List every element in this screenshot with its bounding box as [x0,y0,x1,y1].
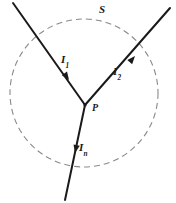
branch-current-1 [13,3,85,105]
label-surface-s-text: S [99,3,105,15]
physics-figure-junction-currents: S I1 I2 In P [0,0,176,203]
label-current-2: I2 [113,66,121,80]
label-current-2-subscript: 2 [118,74,122,82]
label-current-n-subscript: n [84,150,88,158]
branch-current-2 [85,8,170,105]
label-junction-p: P [92,103,98,113]
label-current-1-symbol: I [61,53,65,65]
label-current-n-symbol: I [79,141,83,153]
label-surface-s: S [99,4,105,15]
branch-line-current-1 [13,3,85,105]
figure-canvas [0,0,176,203]
label-current-2-symbol: I [113,65,117,77]
branch-line-current-2 [85,8,170,105]
junction-node-p [83,103,86,106]
label-current-1: I1 [61,54,69,68]
label-current-1-subscript: 1 [66,62,70,70]
label-junction-p-text: P [92,102,98,113]
label-current-n: In [79,142,87,156]
